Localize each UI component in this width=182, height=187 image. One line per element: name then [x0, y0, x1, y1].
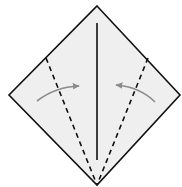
origami-diagram	[0, 0, 182, 187]
paper-square	[9, 6, 180, 185]
